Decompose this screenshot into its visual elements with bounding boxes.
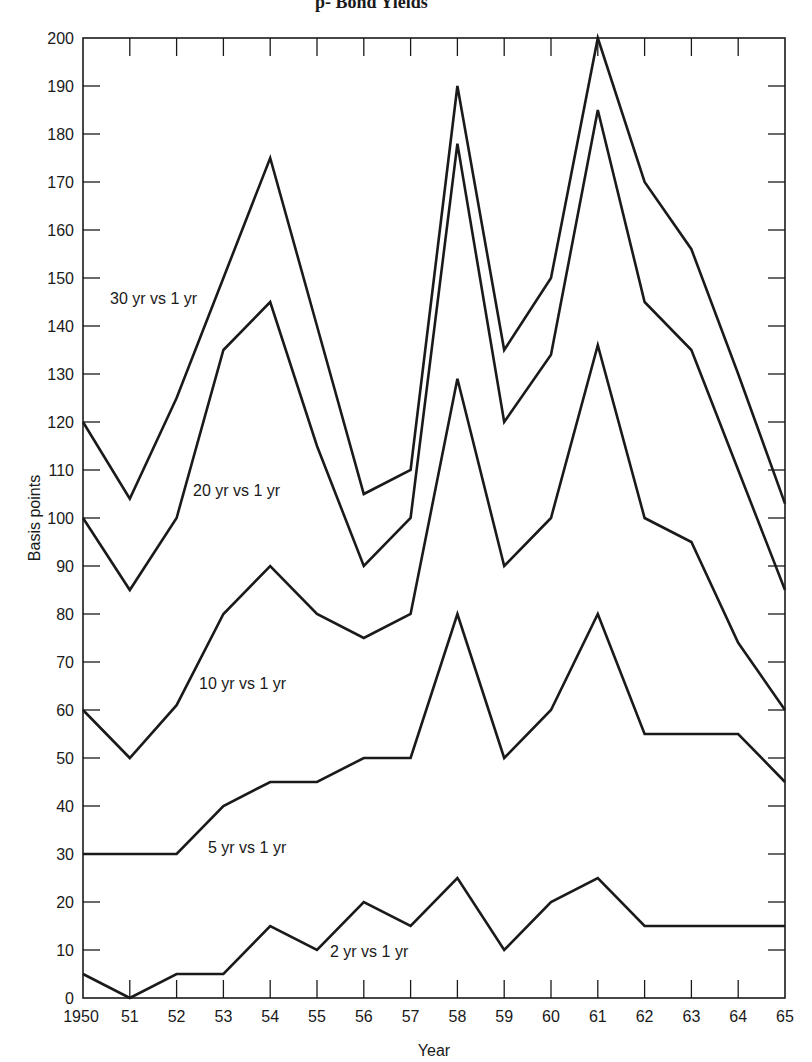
series-line-1 [83,110,785,590]
x-tick-label: 56 [355,1008,373,1025]
y-tick-label: 10 [56,942,74,959]
x-tick-label: 51 [121,1008,139,1025]
y-tick-label: 50 [56,750,74,767]
y-tick-label: 150 [47,270,74,287]
x-tick-label: 53 [215,1008,233,1025]
y-tick-label: 110 [48,462,74,479]
x-tick-label: 52 [168,1008,186,1025]
x-tick-label: 61 [589,1008,607,1025]
x-tick-label: 62 [636,1008,654,1025]
series-line-3 [83,614,785,854]
y-tick-label: 70 [56,654,74,671]
y-tick-label: 40 [56,798,74,815]
series-label-0: 30 yr vs 1 yr [110,290,198,307]
y-tick-label: 80 [56,606,74,623]
y-axis: 0102030405060708090100110120130140150160… [47,30,785,1007]
x-tick-label: 1950 [63,1008,99,1025]
series-label-1: 20 yr vs 1 yr [193,482,281,499]
x-axis-title: Year [418,1042,451,1059]
y-tick-label: 20 [56,894,74,911]
y-tick-label: 130 [47,366,74,383]
y-tick-label: 160 [47,222,74,239]
series-line-4 [83,878,785,998]
plot-area [83,38,785,998]
series-label-4: 2 yr vs 1 yr [330,943,409,960]
series-labels: 30 yr vs 1 yr20 yr vs 1 yr10 yr vs 1 yr5… [110,290,409,960]
x-tick-label: 54 [261,1008,279,1025]
chart-title-fragment: p- Bond Yields [315,0,428,12]
series-line-0 [83,38,785,504]
x-tick-label: 58 [449,1008,467,1025]
series-lines [83,38,785,998]
y-tick-label: 90 [56,558,74,575]
x-tick-label: 60 [542,1008,560,1025]
y-tick-label: 170 [47,174,74,191]
x-tick-label: 64 [729,1008,747,1025]
y-tick-label: 140 [47,318,74,335]
y-tick-label: 30 [56,846,74,863]
y-axis-title: Basis points [26,475,43,561]
series-label-3: 5 yr vs 1 yr [208,839,287,856]
x-axis: 1950515253545556575859606162636465 [63,38,794,1025]
x-tick-label: 55 [308,1008,326,1025]
y-tick-label: 200 [47,30,74,47]
x-tick-label: 65 [776,1008,794,1025]
x-tick-label: 57 [402,1008,420,1025]
y-tick-label: 60 [56,702,74,719]
x-tick-label: 63 [683,1008,701,1025]
y-tick-label: 100 [47,510,74,527]
x-tick-label: 59 [495,1008,513,1025]
y-tick-label: 190 [47,78,74,95]
line-chart: p- Bond Yields 0102030405060708090100110… [0,0,812,1062]
y-tick-label: 180 [47,126,74,143]
series-label-2: 10 yr vs 1 yr [199,675,287,692]
y-tick-label: 120 [47,414,74,431]
series-line-2 [83,345,785,758]
y-tick-label: 0 [65,990,74,1007]
plot-border [83,38,785,998]
